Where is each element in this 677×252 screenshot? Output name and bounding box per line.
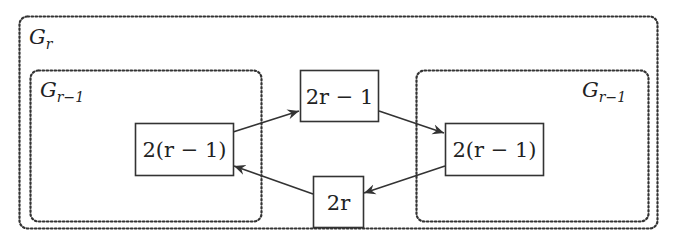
node-left-label: 2(r − 1) <box>142 138 226 162</box>
outer-group-label-main: G <box>29 25 46 49</box>
node-top-center-label: 2r − 1 <box>306 85 374 109</box>
edge-right-to-bottom <box>364 166 445 193</box>
right-group-label-sub: r−1 <box>599 89 626 105</box>
outer-group-label-sub: r <box>46 36 54 52</box>
left-group-label: Gr−1 <box>40 78 84 105</box>
diagram-canvas: Gr Gr−1 Gr−1 2r − 1 2(r − 1) 2(r − 1) 2r <box>0 0 677 252</box>
edge-top-to-right <box>379 111 444 133</box>
right-group-label: Gr−1 <box>582 78 626 105</box>
left-group-label-sub: r−1 <box>57 89 84 105</box>
left-group-label-main: G <box>40 78 57 102</box>
edge-left-to-top <box>233 111 299 132</box>
edge-bottom-to-left <box>234 166 313 194</box>
right-group-label-main: G <box>582 78 599 102</box>
outer-group-label: Gr <box>29 25 54 52</box>
node-right-label: 2(r − 1) <box>452 138 536 162</box>
node-bottom-center-label: 2r <box>327 191 351 215</box>
